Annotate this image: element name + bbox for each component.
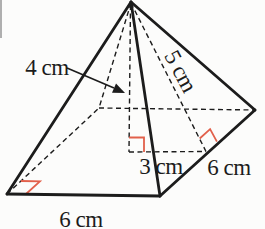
leader-line xyxy=(67,68,114,88)
edge-apex-back-right xyxy=(131,2,255,110)
base-edge-right-label: 6 cm xyxy=(207,155,251,180)
height-line xyxy=(129,5,131,152)
right-angle-marker-base-corner xyxy=(21,181,40,194)
edge-base-right xyxy=(160,110,255,196)
apothem-line xyxy=(129,152,206,153)
arrow-head-icon xyxy=(112,84,125,93)
edge-apex-front-left xyxy=(7,2,131,194)
apothem-label: 3 cm xyxy=(139,154,183,179)
pyramid-figure: 4 cm 5 cm 3 cm 6 cm 6 cm xyxy=(0,0,265,229)
height-label: 4 cm xyxy=(25,55,69,80)
right-angle-marker-slant-foot xyxy=(200,129,217,142)
pyramid-diagram-canvas: 4 cm 5 cm 3 cm 6 cm 6 cm xyxy=(0,0,265,229)
right-angle-marker-height-foot xyxy=(129,138,144,153)
edge-base-back-hidden xyxy=(99,108,255,110)
edge-base-front xyxy=(7,194,160,196)
scan-edge-artifact xyxy=(0,0,2,38)
base-edge-front-label: 6 cm xyxy=(59,207,103,229)
right-angle-markers-group xyxy=(21,129,217,194)
